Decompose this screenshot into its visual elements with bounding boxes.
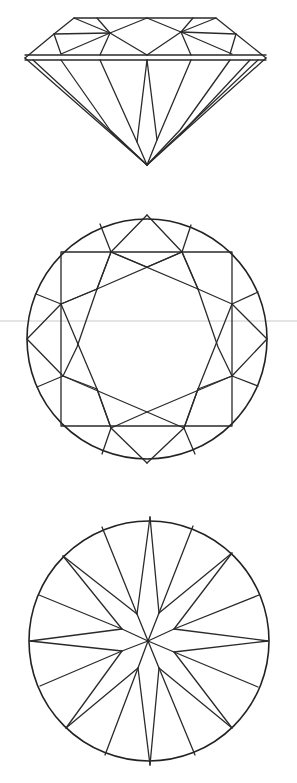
crown-view [27, 215, 267, 463]
pavilion-view [29, 517, 269, 765]
diamond-diagram [0, 0, 297, 783]
side-view [25, 18, 266, 165]
